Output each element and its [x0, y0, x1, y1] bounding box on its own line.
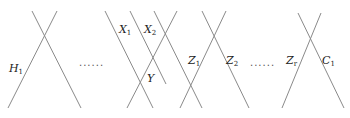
- label-c1: C1: [322, 55, 335, 68]
- curve-h1-right: [32, 11, 81, 108]
- label-y: Y: [147, 73, 154, 86]
- ellipsis-right: ......: [250, 58, 275, 68]
- label-zr: Zr: [286, 55, 297, 68]
- ellipsis-left: ......: [79, 58, 104, 68]
- diagram-lines: [0, 0, 350, 118]
- label-x1: X1: [119, 24, 131, 37]
- crossing-lines-diagram: H1 X1 X2 Y Z1 Z2 Zr C1 ...... ......: [0, 0, 350, 118]
- curve-c1-line: [298, 13, 344, 108]
- label-h1: H1: [9, 63, 23, 76]
- curve-h1-left: [8, 11, 57, 108]
- label-z2: Z2: [226, 55, 238, 68]
- label-x2: X2: [144, 24, 156, 37]
- label-z1: Z1: [188, 55, 200, 68]
- curve-z1-line: [180, 11, 226, 108]
